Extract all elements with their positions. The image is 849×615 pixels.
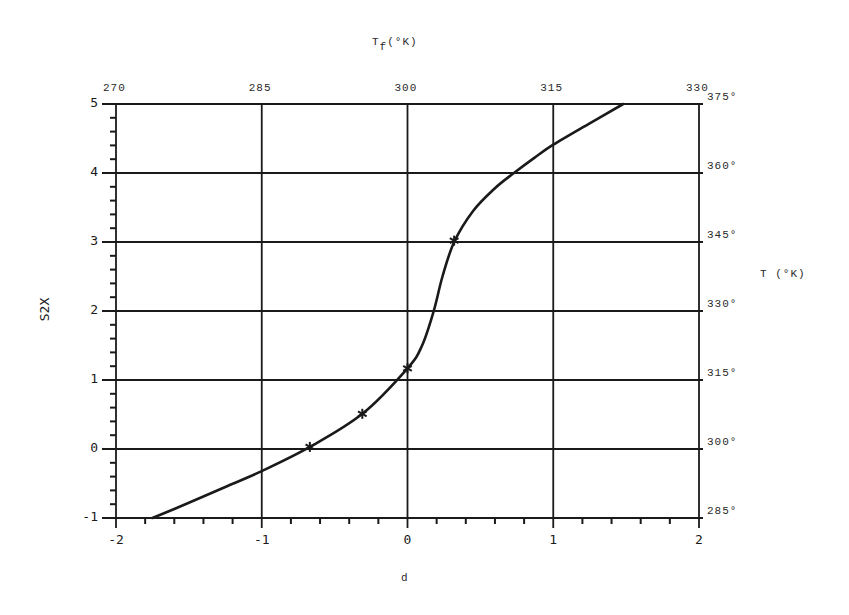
y-tick-label: -1 bbox=[68, 509, 98, 524]
x-tick-label: -2 bbox=[101, 532, 131, 547]
right-tick-label: 315° bbox=[707, 367, 737, 379]
top-tick-label: 330 bbox=[686, 82, 709, 94]
x-tick-label: 2 bbox=[684, 532, 714, 547]
right-tick-label: 300° bbox=[707, 436, 737, 448]
top-tick-label: 315 bbox=[540, 82, 563, 94]
x-tick-label: 1 bbox=[538, 532, 568, 547]
y-tick-label: 4 bbox=[68, 164, 98, 179]
x-tick-label: 0 bbox=[393, 532, 423, 547]
y-tick-label: 0 bbox=[68, 440, 98, 455]
y-tick-label: 1 bbox=[68, 371, 98, 386]
top-tick-label: 270 bbox=[103, 82, 126, 94]
top-tick-label: 285 bbox=[249, 82, 272, 94]
right-tick-label: 330° bbox=[707, 298, 737, 310]
right-axis-title: T (°K) bbox=[760, 268, 806, 280]
top-tick-label: 300 bbox=[395, 82, 418, 94]
x-tick-label: -1 bbox=[247, 532, 277, 547]
y-axis-title: S2X bbox=[37, 290, 52, 330]
x-axis-title: d bbox=[401, 572, 408, 584]
right-tick-label: 375° bbox=[707, 91, 737, 103]
y-tick-label: 2 bbox=[68, 302, 98, 317]
y-tick-label: 3 bbox=[68, 233, 98, 248]
y-tick-label: 5 bbox=[68, 95, 98, 110]
right-tick-label: 285° bbox=[707, 505, 737, 517]
top-axis-title: Tf(°K) bbox=[372, 36, 418, 53]
right-tick-label: 345° bbox=[707, 229, 737, 241]
right-tick-label: 360° bbox=[707, 160, 737, 172]
